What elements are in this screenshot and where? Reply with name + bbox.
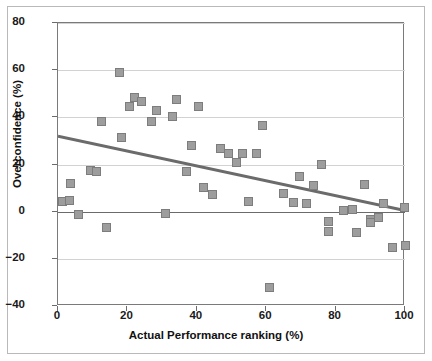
x-axis-tick-mark bbox=[404, 306, 405, 311]
y-axis-tick-mark bbox=[52, 164, 57, 165]
data-point bbox=[208, 190, 217, 199]
y-axis-tick-mark bbox=[52, 211, 57, 212]
y-axis-tick-mark bbox=[52, 116, 57, 117]
data-point bbox=[289, 198, 298, 207]
x-axis-tick-label: 0 bbox=[32, 310, 82, 322]
x-axis-tick-label: 80 bbox=[310, 310, 360, 322]
data-point bbox=[168, 112, 177, 121]
x-axis-tick-label: 100 bbox=[379, 310, 429, 322]
y-axis-tick-mark bbox=[52, 69, 57, 70]
x-axis-tick-mark bbox=[265, 306, 266, 311]
data-point bbox=[199, 183, 208, 192]
data-point bbox=[258, 121, 267, 130]
x-axis-tick-mark bbox=[57, 306, 58, 311]
plot-area bbox=[57, 22, 404, 305]
data-point bbox=[295, 172, 304, 181]
data-point bbox=[137, 97, 146, 106]
data-point bbox=[66, 179, 75, 188]
x-axis-tick-label: 60 bbox=[240, 310, 290, 322]
data-point bbox=[125, 102, 134, 111]
data-point bbox=[388, 243, 397, 252]
data-point bbox=[74, 210, 83, 219]
data-point bbox=[117, 133, 126, 142]
scatter-points-group bbox=[58, 23, 405, 306]
y-axis-tick-mark bbox=[52, 22, 57, 23]
data-point bbox=[309, 181, 318, 190]
data-point bbox=[360, 180, 369, 189]
data-point bbox=[65, 196, 74, 205]
y-axis-tick-label: −40 bbox=[0, 299, 25, 311]
data-point bbox=[238, 149, 247, 158]
data-point bbox=[374, 213, 383, 222]
data-point bbox=[97, 117, 106, 126]
data-point bbox=[324, 217, 333, 226]
data-point bbox=[115, 68, 124, 77]
data-point bbox=[187, 141, 196, 150]
data-point bbox=[339, 206, 348, 215]
y-axis-tick-mark bbox=[52, 258, 57, 259]
data-point bbox=[161, 209, 170, 218]
data-point bbox=[317, 160, 326, 169]
data-point bbox=[324, 227, 333, 236]
data-point bbox=[194, 102, 203, 111]
data-point bbox=[252, 149, 261, 158]
x-axis-tick-mark bbox=[126, 306, 127, 311]
data-point bbox=[279, 189, 288, 198]
x-axis-tick-label: 40 bbox=[171, 310, 221, 322]
data-point bbox=[348, 205, 357, 214]
data-point bbox=[224, 149, 233, 158]
x-axis-tick-mark bbox=[335, 306, 336, 311]
data-point bbox=[232, 158, 241, 167]
data-point bbox=[400, 203, 409, 212]
data-point bbox=[216, 144, 225, 153]
x-axis-title: Actual Performance ranking (%) bbox=[7, 329, 425, 341]
y-axis-title: Overconfidence (%) bbox=[11, 14, 23, 254]
data-point bbox=[401, 241, 410, 250]
data-point bbox=[302, 199, 311, 208]
figure-container: −40−20020406080 020406080100 Overconfide… bbox=[0, 0, 432, 361]
data-point bbox=[147, 117, 156, 126]
data-point bbox=[92, 167, 101, 176]
data-point bbox=[379, 199, 388, 208]
data-point bbox=[172, 95, 181, 104]
x-axis-tick-mark bbox=[196, 306, 197, 311]
data-point bbox=[265, 283, 274, 292]
data-point bbox=[102, 223, 111, 232]
data-point bbox=[182, 167, 191, 176]
data-point bbox=[352, 228, 361, 237]
x-axis-tick-label: 20 bbox=[101, 310, 151, 322]
data-point bbox=[152, 106, 161, 115]
data-point bbox=[244, 197, 253, 206]
